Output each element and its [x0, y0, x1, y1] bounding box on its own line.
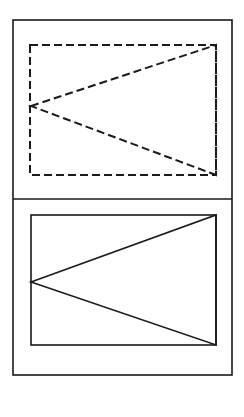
figure-canvas: Two-panel line drawing: dashed rectangle… [0, 0, 244, 417]
figure-background [0, 0, 244, 417]
figure-root: Two-panel line drawing: dashed rectangle… [0, 0, 244, 417]
